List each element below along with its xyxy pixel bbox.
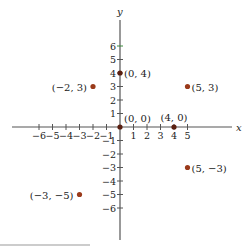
point-label: (−3, −5)	[30, 190, 74, 201]
point-label: (0, 4)	[124, 68, 151, 79]
y-tick-label: −1	[102, 135, 116, 146]
coordinate-plane: xy−6−5−4−3−2−112345654321−1−2−3−4−5−6(0,…	[0, 0, 251, 250]
point-marker	[90, 84, 95, 89]
point-marker	[185, 84, 190, 89]
point-label: (5, 3)	[192, 82, 219, 93]
y-tick-label: 1	[110, 108, 116, 119]
x-tick-label: 3	[157, 130, 163, 141]
y-tick-label: 6	[110, 41, 116, 52]
point-marker	[185, 165, 190, 170]
x-tick-label: −4	[59, 130, 73, 141]
point-label: (4, 0)	[161, 112, 188, 123]
point-label: (0, 0)	[124, 113, 151, 124]
y-tick-label: 2	[110, 95, 116, 106]
x-axis-label: x	[236, 122, 242, 133]
y-tick-label: −5	[102, 189, 116, 200]
y-tick-label: 3	[110, 81, 116, 92]
x-tick-label: 4	[171, 130, 177, 141]
point-marker	[117, 70, 122, 75]
x-tick-label: −5	[45, 130, 59, 141]
x-tick-label: 1	[130, 130, 136, 141]
y-tick-label: −6	[102, 203, 116, 214]
y-tick-label: −2	[102, 149, 116, 160]
x-tick-label: −3	[72, 130, 86, 141]
x-tick-label: 5	[184, 130, 190, 141]
x-tick-label: −2	[86, 130, 100, 141]
point-label: (5, −3)	[192, 163, 227, 174]
y-tick-label: −3	[102, 162, 116, 173]
y-tick-label: 4	[110, 68, 116, 79]
coordinate-plane-figure: xy−6−5−4−3−2−112345654321−1−2−3−4−5−6(0,…	[0, 0, 251, 250]
point-marker	[171, 124, 176, 129]
y-axis-label: y	[116, 6, 123, 17]
x-tick-label: −6	[32, 130, 46, 141]
x-tick-label: 2	[144, 130, 150, 141]
point-label: (−2, 3)	[52, 82, 87, 93]
point-marker	[117, 124, 122, 129]
y-tick-label: −4	[102, 176, 116, 187]
point-marker	[77, 192, 82, 197]
y-tick-label: 5	[110, 54, 116, 65]
